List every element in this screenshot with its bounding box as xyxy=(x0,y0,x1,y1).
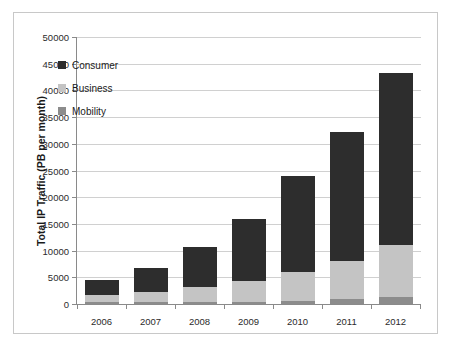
stacked-bar[interactable] xyxy=(85,280,119,304)
x-axis-label: 2008 xyxy=(189,316,210,327)
bar-segment-consumer[interactable] xyxy=(85,280,119,295)
x-axis-label: 2011 xyxy=(336,316,356,327)
bar-segment-mobility[interactable] xyxy=(379,297,413,304)
chart-legend: Consumer Business Mobility xyxy=(58,55,118,124)
bar-segment-business[interactable] xyxy=(134,292,168,302)
legend-swatch-consumer xyxy=(58,61,66,69)
bar-segment-business[interactable] xyxy=(232,281,266,302)
y-axis-label: 5000 xyxy=(48,272,69,283)
legend-item-business: Business xyxy=(58,78,118,98)
bar-segment-mobility[interactable] xyxy=(183,302,217,304)
bar-segment-business[interactable] xyxy=(281,272,315,301)
legend-label-business: Business xyxy=(72,83,113,94)
bar-segment-consumer[interactable] xyxy=(379,73,413,245)
y-axis-label: 25000 xyxy=(43,165,69,176)
bar-segment-business[interactable] xyxy=(379,245,413,297)
y-axis-label: 20000 xyxy=(43,192,69,203)
stacked-bar[interactable] xyxy=(281,176,315,304)
x-axis-tick xyxy=(126,304,127,309)
legend-label-consumer: Consumer xyxy=(72,60,118,71)
bar-segment-mobility[interactable] xyxy=(330,299,364,304)
bar-group: 2010 xyxy=(273,37,322,304)
stacked-bar[interactable] xyxy=(183,247,217,304)
legend-item-consumer: Consumer xyxy=(58,55,118,75)
x-axis-tick xyxy=(175,304,176,309)
bar-group: 2008 xyxy=(175,37,224,304)
x-axis-tick xyxy=(371,304,372,309)
x-axis-tick xyxy=(420,304,421,309)
bar-group: 2011 xyxy=(322,37,371,304)
x-axis-label: 2006 xyxy=(91,316,112,327)
y-axis-label: 15000 xyxy=(43,218,69,229)
legend-swatch-business xyxy=(58,84,66,92)
x-axis-tick xyxy=(77,304,78,309)
bar-segment-business[interactable] xyxy=(183,287,217,302)
bar-segment-business[interactable] xyxy=(330,261,364,299)
legend-label-mobility: Mobility xyxy=(72,106,106,117)
bar-segment-consumer[interactable] xyxy=(232,219,266,281)
stacked-bar[interactable] xyxy=(379,73,413,304)
bar-segment-consumer[interactable] xyxy=(281,176,315,272)
bar-group: 2012 xyxy=(371,37,420,304)
bar-segment-mobility[interactable] xyxy=(281,301,315,304)
bar-segment-mobility[interactable] xyxy=(134,302,168,304)
bar-segment-mobility[interactable] xyxy=(232,302,266,304)
x-axis-tick xyxy=(322,304,323,309)
y-axis-label: 30000 xyxy=(43,138,69,149)
x-axis-label: 2010 xyxy=(287,316,308,327)
bar-segment-consumer[interactable] xyxy=(183,247,217,288)
bar-segment-business[interactable] xyxy=(85,295,119,302)
stacked-bar[interactable] xyxy=(134,268,168,304)
x-axis-tick xyxy=(273,304,274,309)
bar-segment-mobility[interactable] xyxy=(85,302,119,304)
y-axis-label: 10000 xyxy=(43,245,69,256)
bar-segment-consumer[interactable] xyxy=(330,132,364,261)
bar-segment-consumer[interactable] xyxy=(134,268,168,292)
stacked-bar[interactable] xyxy=(232,219,266,304)
x-axis-label: 2012 xyxy=(385,316,406,327)
legend-item-mobility: Mobility xyxy=(58,101,118,121)
x-axis-label: 2009 xyxy=(238,316,259,327)
y-axis-label: 0 xyxy=(64,299,69,310)
bar-group: 2009 xyxy=(224,37,273,304)
x-axis-label: 2007 xyxy=(140,316,161,327)
legend-swatch-mobility xyxy=(58,107,66,115)
chart-frame: Total IP Traffic (PB per month) 05000100… xyxy=(13,12,438,334)
plot-area: 0500010000150002000025000300003500040000… xyxy=(76,37,420,305)
x-axis-tick xyxy=(224,304,225,309)
stacked-bar[interactable] xyxy=(330,132,364,304)
bar-group: 2007 xyxy=(126,37,175,304)
y-axis-label: 50000 xyxy=(43,32,69,43)
